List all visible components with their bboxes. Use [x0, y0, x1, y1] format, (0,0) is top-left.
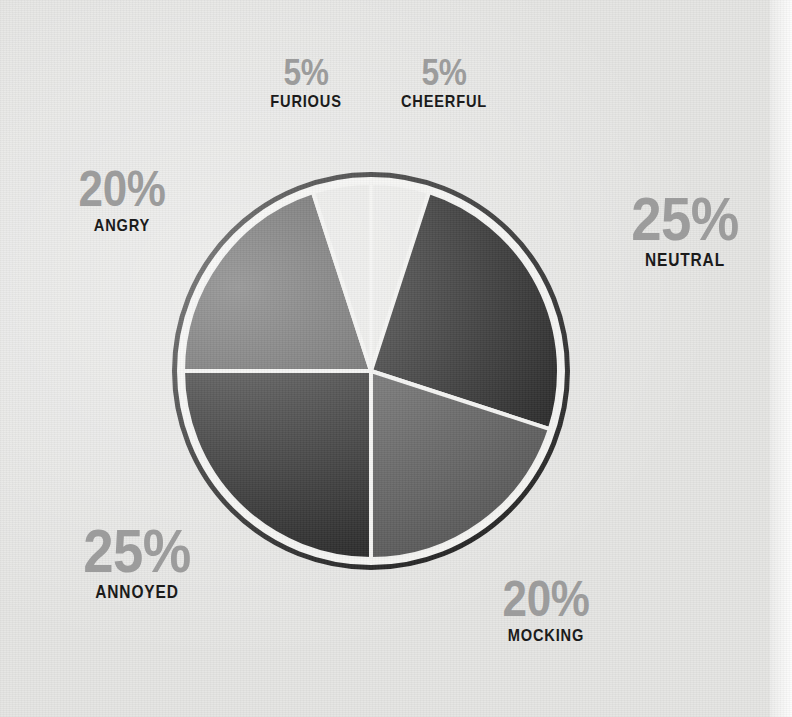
pie-chart-poster: 5% FURIOUS 5% CHEERFUL 20% ANGRY 25% NEU… [0, 0, 792, 717]
paper-right-edge [770, 0, 792, 717]
callout-neutral-percent: 25% [603, 190, 767, 249]
callout-cheerful-percent: 5% [374, 56, 515, 90]
callout-annoyed[interactable]: 25% ANNOYED [32, 522, 242, 603]
callout-neutral[interactable]: 25% NEUTRAL [592, 190, 778, 271]
callout-furious[interactable]: 5% FURIOUS [226, 56, 386, 112]
callout-neutral-label: NEUTRAL [605, 251, 765, 271]
callout-annoyed-label: ANNOYED [47, 583, 228, 603]
callout-mocking[interactable]: 20% MOCKING [448, 576, 644, 645]
pie-chart-svg [171, 171, 571, 571]
callout-annoyed-percent: 25% [45, 522, 230, 581]
callout-angry-percent: 20% [36, 166, 208, 214]
pie-chart [171, 171, 571, 571]
callout-mocking-percent: 20% [460, 576, 632, 624]
callout-cheerful-label: CHEERFUL [375, 93, 513, 112]
callout-mocking-label: MOCKING [462, 627, 631, 646]
callout-angry[interactable]: 20% ANGRY [24, 166, 220, 235]
callout-cheerful[interactable]: 5% CHEERFUL [364, 56, 524, 112]
pie-slice-group [183, 183, 559, 559]
callout-angry-label: ANGRY [38, 217, 207, 236]
callout-furious-label: FURIOUS [237, 93, 375, 112]
callout-furious-percent: 5% [236, 56, 377, 90]
